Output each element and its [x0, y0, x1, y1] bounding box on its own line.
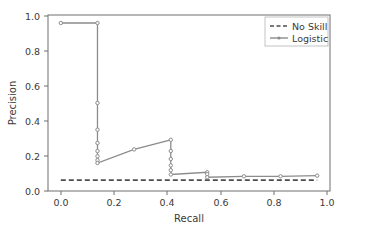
y-axis-tick-labels: 0.0 0.2 0.4 0.6 0.8 1.0 — [25, 11, 40, 197]
legend-marker-logistic — [277, 36, 280, 39]
x-tick-label: 0.6 — [213, 197, 228, 208]
series-marker — [279, 175, 282, 178]
series-marker — [242, 175, 245, 178]
series-marker — [59, 21, 62, 24]
y-tick-label: 0.6 — [25, 81, 40, 92]
series-marker — [96, 149, 99, 152]
y-tick-label: 1.0 — [25, 11, 40, 22]
chart-canvas: 0.0 0.2 0.4 0.6 0.8 1.0 0.0 0.2 0.4 0.6 … — [0, 0, 367, 239]
series-marker — [169, 169, 172, 172]
series-marker — [132, 148, 135, 151]
series-marker — [169, 149, 172, 152]
y-tick-label: 0.2 — [25, 151, 40, 162]
x-tick-label: 0.4 — [159, 197, 174, 208]
y-axis-title: Precision — [7, 81, 18, 126]
series-marker — [96, 141, 99, 144]
y-tick-label: 0.4 — [25, 116, 40, 127]
series-marker — [169, 157, 172, 160]
series-marker — [96, 101, 99, 104]
legend-label-no-skill: No Skill — [292, 21, 327, 32]
x-axis-title: Recall — [174, 213, 204, 224]
x-tick-label: 0.0 — [53, 197, 68, 208]
x-tick-label: 1.0 — [319, 197, 334, 208]
series-marker — [96, 128, 99, 131]
series-marker — [169, 164, 172, 167]
y-axis-ticks — [44, 16, 48, 191]
x-axis-ticks — [61, 191, 327, 195]
x-tick-label: 0.8 — [266, 197, 281, 208]
y-tick-label: 0.8 — [25, 46, 40, 57]
x-tick-label: 0.2 — [106, 197, 121, 208]
series-marker — [96, 21, 99, 24]
chart-legend[interactable]: No Skill Logistic — [265, 17, 328, 46]
x-axis-tick-labels: 0.0 0.2 0.4 0.6 0.8 1.0 — [53, 197, 334, 208]
y-tick-label: 0.0 — [25, 186, 40, 197]
series-marker — [315, 174, 318, 177]
series-marker — [169, 173, 172, 176]
series-marker — [96, 155, 99, 158]
precision-recall-figure: 0.0 0.2 0.4 0.6 0.8 1.0 0.0 0.2 0.4 0.6 … — [0, 0, 367, 239]
series-marker — [96, 161, 99, 164]
legend-label-logistic: Logistic — [292, 33, 328, 44]
series-marker — [169, 138, 172, 141]
series-marker — [206, 176, 209, 179]
